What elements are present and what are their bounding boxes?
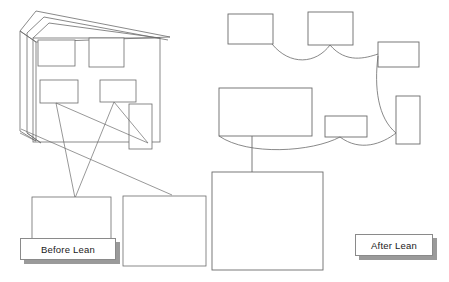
sheet-layer-back: [20, 31, 36, 141]
after-curve-4: [219, 136, 340, 150]
after-curve-2: [330, 45, 378, 58]
before-box-1: [38, 40, 75, 66]
flow-line-3: [75, 102, 114, 198]
before-box-4: [100, 80, 136, 102]
before-lean-inner-boxes: [38, 38, 136, 103]
after-curve-3: [377, 56, 396, 133]
before-lower-box-left: [32, 197, 111, 241]
after-box-top-right: [378, 42, 419, 67]
after-lean-label: After Lean: [355, 234, 433, 256]
after-box-small-mid: [325, 116, 367, 137]
before-box-2: [89, 38, 124, 67]
before-tall-box: [129, 104, 152, 149]
diagram-canvas: Before Lean After Lean: [0, 0, 449, 282]
before-lean-label: Before Lean: [20, 238, 116, 260]
before-box-3: [40, 80, 78, 103]
after-curve-1: [272, 44, 330, 60]
after-box-top-mid: [308, 12, 353, 45]
after-box-bottom: [212, 172, 323, 270]
after-box-top-left: [228, 14, 273, 44]
after-lean-boxes: [212, 12, 420, 270]
before-lower-box-right: [123, 196, 206, 266]
after-lean-label-text: After Lean: [371, 240, 417, 251]
after-box-tall-right: [396, 96, 420, 144]
sheet-layer-front-top: [33, 23, 160, 38]
after-box-main: [219, 88, 312, 136]
flow-line-1: [56, 103, 75, 198]
before-lean-label-text: Before Lean: [41, 244, 95, 255]
